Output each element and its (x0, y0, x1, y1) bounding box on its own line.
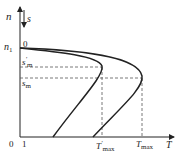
axis-label-t: T (166, 140, 172, 150)
mark-tmax: Tmax (136, 140, 153, 151)
tick-s-one: 1 (22, 140, 27, 149)
axis-label-n: n (6, 11, 12, 22)
curve-rated (20, 48, 142, 137)
origin-s-zero: 0 (23, 40, 28, 49)
mark-sm: sm (22, 79, 31, 90)
mark-tmax-prime: T′max (96, 140, 115, 153)
tick-n1: n1 (4, 42, 13, 54)
mark-sm-prime: s′m (22, 56, 33, 69)
origin-n-zero: 0 (9, 140, 14, 149)
axis-label-s: s (27, 14, 31, 24)
